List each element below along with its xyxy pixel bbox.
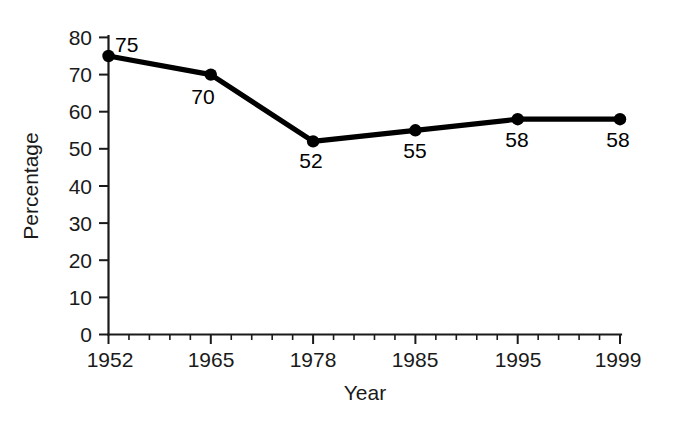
data-value-labels: 75 70 52 55 58 58 (115, 33, 630, 172)
y-tick-label: 0 (80, 323, 92, 346)
x-tick-label: 1985 (392, 348, 439, 371)
y-axis-ticks (99, 37, 109, 334)
data-label: 58 (606, 128, 629, 151)
data-series (102, 50, 626, 148)
data-label: 75 (115, 33, 138, 56)
x-tick-label: 1965 (188, 348, 235, 371)
x-axis-tick-labels: 1952 1965 1978 1985 1995 1999 (87, 348, 642, 371)
x-tick-label: 1999 (595, 348, 642, 371)
axis-lines (109, 36, 622, 335)
y-tick-label: 70 (69, 63, 92, 86)
y-tick-label: 40 (69, 175, 92, 198)
y-tick-label: 50 (69, 137, 92, 160)
x-axis-title: Year (344, 381, 386, 404)
y-tick-label: 30 (69, 212, 92, 235)
data-label: 55 (403, 139, 426, 162)
x-axis-major-ticks (109, 335, 621, 345)
series-line (109, 56, 621, 141)
data-point (614, 113, 626, 125)
x-tick-label: 1995 (495, 348, 542, 371)
x-tick-label: 1952 (87, 348, 134, 371)
y-axis-tick-labels: 0 10 20 30 40 50 60 70 80 (69, 26, 92, 346)
data-label: 52 (299, 149, 322, 172)
line-chart: 0 10 20 30 40 50 60 70 80 (0, 0, 673, 427)
data-point (205, 68, 217, 80)
data-point (512, 113, 524, 125)
chart-canvas: 0 10 20 30 40 50 60 70 80 (0, 0, 673, 427)
y-tick-label: 80 (69, 26, 92, 49)
data-label: 58 (505, 128, 528, 151)
y-tick-label: 10 (69, 286, 92, 309)
data-point (102, 50, 114, 62)
data-label: 70 (191, 85, 214, 108)
data-point (409, 124, 421, 136)
y-tick-label: 20 (69, 249, 92, 272)
y-tick-label: 60 (69, 100, 92, 123)
data-point (307, 135, 319, 147)
x-tick-label: 1978 (290, 348, 337, 371)
y-axis-title: Percentage (19, 132, 42, 239)
